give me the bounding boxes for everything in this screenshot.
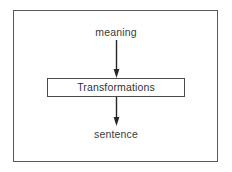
arrow-meaning-to-transformations (111, 40, 122, 78)
process-box-label: Transformations (77, 82, 155, 93)
diagram-canvas: meaning Transformations sentence (0, 0, 232, 172)
process-box-transformations: Transformations (47, 78, 185, 97)
arrow-transformations-to-sentence (111, 97, 122, 126)
node-label-meaning: meaning (0, 26, 232, 38)
node-label-sentence: sentence (0, 128, 232, 140)
